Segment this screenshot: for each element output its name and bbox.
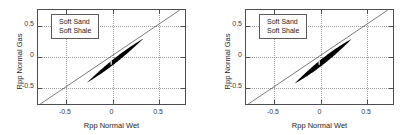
axis-tick-y-right [389,26,393,27]
y-axis-label: Rpp Normal Gas [223,14,232,110]
axis-tick-x-top [159,10,160,14]
axis-tick-y [246,88,250,89]
legend-entry-1: Soft Shale [267,26,299,35]
axis-tick-y [38,57,42,58]
axis-tick-y-right [181,88,185,89]
axis-tick-x-top [113,10,114,14]
axis-tick-x-top [367,10,368,14]
axis-tick-y [246,26,250,27]
axis-tick-y-right [181,57,185,58]
plot-panel-0: Soft SandSoft Shale-0.500.50.50-0.5Rpp N… [0,0,207,135]
axis-tick-y [246,57,250,58]
plot-area-1: Soft SandSoft Shale [245,9,394,105]
legend-entry-1: Soft Shale [59,26,91,35]
axis-tick-y-right [389,57,393,58]
legend-entry-0: Soft Sand [59,17,91,26]
legend-box: Soft SandSoft Shale [51,14,99,39]
plot-panel-1: Soft SandSoft Shale-0.500.50.50-0.5Rpp N… [208,0,415,135]
axis-tick-y [38,88,42,89]
axis-tick-x-top [321,10,322,14]
figure-root: Soft SandSoft Shale-0.500.50.50-0.5Rpp N… [0,0,415,135]
x-tick-label: -0.5 [258,108,288,115]
y-axis-label: Rpp Normal Gas [15,14,24,110]
x-axis-label: Rpp Normal Wet [245,121,394,130]
legend-box: Soft SandSoft Shale [259,14,307,39]
axis-tick-y-right [181,26,185,27]
axis-tick-y-right [389,88,393,89]
axis-tick-x [66,100,67,104]
x-tick-label: 0.5 [351,108,381,115]
legend-entry-0: Soft Sand [267,17,299,26]
x-tick-label: 0 [97,108,127,115]
x-tick-label: 0.5 [143,108,173,115]
axis-tick-x [321,100,322,104]
x-tick-label: -0.5 [50,108,80,115]
x-tick-label: 0 [305,108,335,115]
axis-tick-x [113,100,114,104]
axis-tick-y [38,26,42,27]
plot-area-0: Soft SandSoft Shale [37,9,186,105]
x-axis-label: Rpp Normal Wet [37,121,186,130]
axis-tick-x [274,100,275,104]
axis-tick-x [367,100,368,104]
axis-tick-x [159,100,160,104]
